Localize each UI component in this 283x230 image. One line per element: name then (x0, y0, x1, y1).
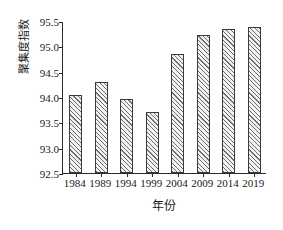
bar (120, 99, 133, 173)
y-tick-label: 92.5 (27, 169, 59, 180)
y-tick-label: 93.5 (27, 118, 59, 129)
x-tick-label: 2014 (217, 176, 239, 190)
x-axis-tick-labels: 19841989199419992004200920142019 (62, 176, 266, 192)
y-axis-tick-labels: 92.593.093.594.094.595.095.5 (26, 22, 59, 174)
x-tick-label: 1999 (140, 176, 162, 190)
x-tick-label: 1989 (89, 176, 111, 190)
bar (248, 27, 261, 173)
plot-area (62, 22, 266, 174)
y-tick-mark (59, 174, 63, 175)
x-tick-label: 2004 (166, 176, 188, 190)
x-tick-label: 1984 (64, 176, 86, 190)
bar (69, 95, 82, 173)
x-tick-label: 2009 (191, 176, 213, 190)
x-axis-title: 年份 (62, 198, 266, 214)
y-tick-label: 94.0 (27, 93, 59, 104)
y-tick-label: 94.5 (27, 67, 59, 78)
y-tick-label: 95.5 (27, 17, 59, 28)
x-tick-label: 2019 (242, 176, 264, 190)
bar (222, 29, 235, 173)
bar (171, 54, 184, 173)
y-tick-label: 93.0 (27, 143, 59, 154)
bar (95, 82, 108, 173)
bar (146, 112, 159, 173)
bar-chart-figure: 聚集度指数 92.593.093.594.094.595.095.5 19841… (0, 0, 283, 230)
y-tick-label: 95.0 (27, 42, 59, 53)
x-tick-label: 1994 (115, 176, 137, 190)
bar (197, 35, 210, 173)
bar-series (63, 22, 266, 173)
